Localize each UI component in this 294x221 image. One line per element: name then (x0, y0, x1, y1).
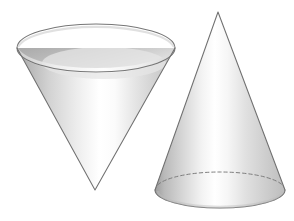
figure-canvas: Two cones A line drawing of two grey sha… (0, 0, 294, 221)
cone-right-lateral-surface (155, 12, 285, 208)
cone-left-group (17, 24, 175, 190)
cones-illustration (0, 0, 294, 221)
cone-right-group (155, 12, 285, 208)
cone-left-rim-shadow (18, 27, 174, 47)
